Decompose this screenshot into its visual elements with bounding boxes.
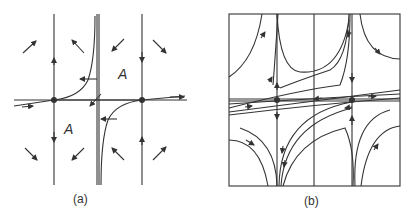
panel-b — [229, 14, 400, 186]
fixed-point-b-right — [349, 97, 355, 103]
region-label-a-upper: A — [118, 66, 127, 82]
fixed-point-a-left — [51, 97, 57, 103]
panel-label-a: (a) — [73, 192, 88, 206]
fixed-point-a-right — [139, 97, 145, 103]
panel-a — [14, 14, 187, 185]
fixed-point-b-left — [274, 97, 280, 103]
phase-portrait-figure — [0, 0, 414, 216]
region-label-a-lower: A — [64, 121, 73, 137]
panel-label-b: (b) — [304, 194, 319, 208]
